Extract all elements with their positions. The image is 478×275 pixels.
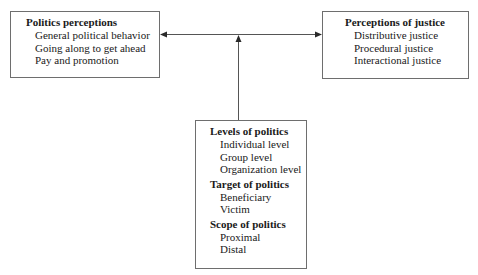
list-item: Interactional justice <box>345 54 468 67</box>
list-item: Distal <box>210 243 306 256</box>
list-item: Distributive justice <box>345 29 468 42</box>
list-item: Beneficiary <box>210 191 306 204</box>
list-item: Group level <box>210 151 306 164</box>
group-title: Target of politics <box>210 178 306 191</box>
list-item: Going along to get ahead <box>26 42 159 55</box>
box-title: Perceptions of justice <box>345 16 468 29</box>
levels-of-politics-group: Levels of politics Individual level Grou… <box>210 125 306 176</box>
politics-perceptions-box: Politics perceptions General political b… <box>10 11 160 78</box>
perceptions-of-justice-box: Perceptions of justice Distributive just… <box>322 11 469 79</box>
list-item: Victim <box>210 203 306 216</box>
list-item: General political behavior <box>26 29 159 42</box>
list-item: Organization level <box>210 163 306 176</box>
scope-of-politics-group: Scope of politics Proximal Distal <box>210 218 306 256</box>
list-item: Procedural justice <box>345 42 468 55</box>
list-item: Proximal <box>210 231 306 244</box>
group-title: Scope of politics <box>210 218 306 231</box>
list-item: Individual level <box>210 138 306 151</box>
target-of-politics-group: Target of politics Beneficiary Victim <box>210 178 306 216</box>
box-title: Politics perceptions <box>26 16 159 29</box>
list-item: Pay and promotion <box>26 54 159 67</box>
group-title: Levels of politics <box>210 125 306 138</box>
moderators-box: Levels of politics Individual level Grou… <box>195 120 307 269</box>
